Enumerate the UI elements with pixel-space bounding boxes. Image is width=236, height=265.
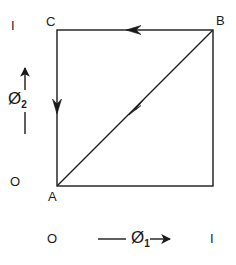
y-axis-subscript: 2	[21, 99, 27, 110]
diagram-canvas	[0, 0, 236, 265]
x-axis-label: Ø1	[131, 229, 150, 249]
x-axis-symbol: Ø	[131, 228, 144, 247]
x-axis-max-tick-label: I	[210, 232, 214, 245]
x-axis-subscript: 1	[144, 238, 150, 249]
vertex-label-c: C	[46, 15, 55, 28]
diagonal-path-a-to-b	[58, 31, 213, 186]
y-axis-max-tick-label: I	[11, 19, 15, 32]
y-axis-label: Ø2	[8, 90, 27, 110]
vertex-label-b: B	[216, 14, 225, 27]
diagonal-arrowhead-icon	[129, 99, 144, 115]
phase-square-figure: I O C B A Ø2 O I Ø1	[0, 0, 236, 265]
y-axis-min-tick-label: O	[10, 175, 20, 188]
y-axis-symbol: Ø	[8, 89, 21, 108]
x-axis-min-tick-label: O	[47, 232, 57, 245]
vertex-label-a: A	[48, 190, 57, 203]
